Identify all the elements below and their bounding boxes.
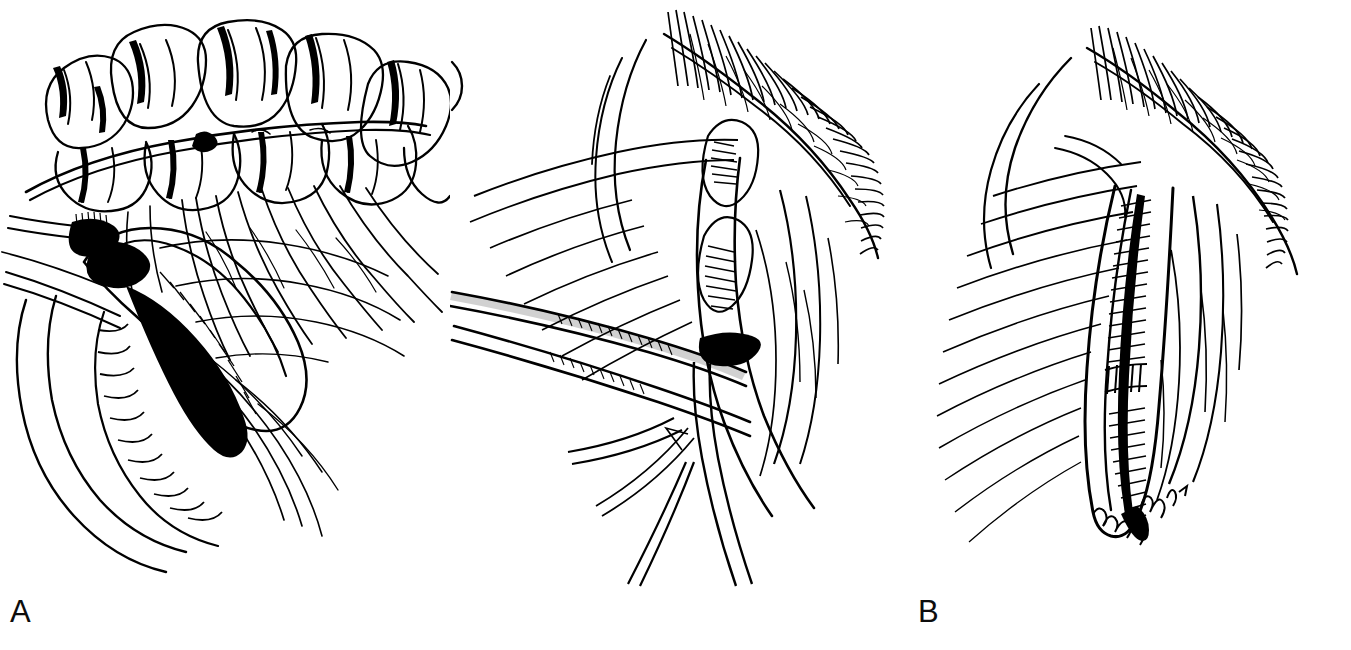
- panel-b-illustration: [450, 0, 905, 590]
- panel-c-illustration: [905, 0, 1351, 590]
- lower-instrument-fan: [568, 362, 752, 586]
- colon-haustra-row-lower: [56, 124, 450, 211]
- cut-tissue-hatched-edge: [668, 10, 884, 254]
- completed-conduit: [1085, 186, 1173, 541]
- cut-tissue-hatched-edge-back: [690, 34, 869, 226]
- conduit-clamped-waist: [699, 332, 761, 366]
- panel-a-illustration: [0, 0, 450, 590]
- left-edge-arc-fragment: [452, 62, 462, 110]
- panel-c: C: [905, 0, 1351, 650]
- colon-haustra-row-upper: [46, 20, 450, 166]
- cut-tissue-hatched-edge: [1091, 26, 1288, 268]
- right-tissue-folds: [756, 190, 838, 476]
- panel-b: B: [450, 0, 905, 650]
- cut-tissue-hatched-edge-back: [1113, 48, 1285, 220]
- bottom-caption: [88, 640, 608, 648]
- panel-label-a: A: [10, 596, 31, 627]
- figure-root: A: [0, 0, 1351, 650]
- tissue-plane-sheets: [937, 162, 1141, 542]
- panel-a: A: [0, 0, 450, 650]
